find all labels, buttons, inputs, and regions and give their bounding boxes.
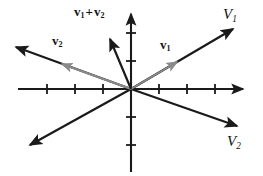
label-v2-base: v xyxy=(52,33,59,48)
label-v1-plus-v2-operator: + xyxy=(85,4,94,19)
label-axis-V1: V1 xyxy=(223,7,237,22)
label-v1-plus-v2-v1-base: v xyxy=(74,4,81,19)
label-v1: v1 xyxy=(160,38,171,51)
vector-diagram-svg xyxy=(0,0,263,176)
label-axis-V1-base: V xyxy=(223,6,232,22)
label-v1-plus-v2: v1+v2 xyxy=(74,5,104,18)
label-v1-plus-v2-v2-sub: 2 xyxy=(100,11,104,20)
label-v1-base: v xyxy=(160,37,167,52)
label-v2: v2 xyxy=(52,34,63,47)
label-axis-V2-sub: 2 xyxy=(236,141,241,151)
label-axis-V2-base: V xyxy=(227,133,236,149)
label-v1-plus-v2-v1-sub: 1 xyxy=(81,11,85,20)
label-v1-sub: 1 xyxy=(167,44,171,53)
label-axis-V1-sub: 1 xyxy=(232,14,237,24)
label-v2-sub: 2 xyxy=(59,40,63,49)
label-axis-V2: V2 xyxy=(227,134,241,149)
